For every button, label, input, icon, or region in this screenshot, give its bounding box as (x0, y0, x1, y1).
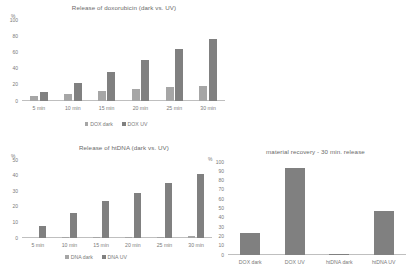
legend-label: DOX UV (128, 121, 148, 127)
x-axis-tick-label: 25 min (149, 242, 181, 248)
bar (240, 233, 260, 255)
x-axis-tick-label: 5 min (22, 242, 54, 248)
bar (166, 87, 174, 101)
chart-title: material recovery - 30 min. release (228, 148, 403, 155)
bar (107, 72, 115, 101)
bar (197, 174, 204, 238)
bar (62, 237, 69, 238)
bar (141, 60, 149, 101)
bar (132, 89, 140, 101)
bar (74, 83, 82, 101)
bar (285, 168, 305, 255)
x-axis-tick-label: DOX dark (228, 259, 273, 265)
bar (64, 94, 72, 101)
legend-swatch-icon (102, 255, 106, 259)
legend: DOX dark DOX UV (0, 121, 232, 127)
plot-area (22, 20, 225, 101)
x-axis-tick-label: 15 min (85, 242, 117, 248)
y-axis-tick-label: 100 (206, 160, 224, 165)
x-axis-line (22, 100, 225, 101)
y-axis-tick-label: 10 (206, 243, 224, 248)
legend: DNA dark DNA UV (0, 254, 212, 260)
x-axis-tick-label: 5 min (22, 105, 56, 111)
legend-item-dna-dark: DNA dark (65, 254, 93, 260)
y-axis-tick-label: 20 (0, 82, 18, 87)
y-axis-tick-label: 90 (206, 169, 224, 174)
y-axis-tick-label: 60 (206, 197, 224, 202)
chart-htdna-release: Release of htDNA (dark vs. UV) % 5 min10… (0, 144, 232, 275)
bar (188, 236, 195, 238)
chart-title: Release of htDNA (dark vs. UV) (34, 144, 214, 151)
bar (329, 254, 349, 255)
x-axis-tick-label: htDNA UV (362, 259, 407, 265)
x-axis-tick-label: 10 min (56, 105, 90, 111)
bar (125, 237, 132, 238)
y-axis-tick-label: 30 (206, 225, 224, 230)
y-axis-tick-label: 50 (0, 158, 18, 163)
y-axis-tick-label: 60 (0, 50, 18, 55)
x-axis-tick-label: 30 min (191, 105, 225, 111)
bar (102, 201, 109, 238)
x-axis-tick-label: 10 min (54, 242, 86, 248)
bar (93, 237, 100, 238)
legend-label: DOX dark (90, 121, 113, 127)
y-axis-tick-label: 40 (0, 173, 18, 178)
legend-label: DNA UV (108, 254, 127, 260)
x-axis-tick-label: DOX UV (273, 259, 318, 265)
x-axis-line (22, 237, 212, 238)
y-axis-tick-label: 80 (0, 34, 18, 39)
bar (30, 96, 38, 101)
legend-swatch-icon (65, 255, 69, 259)
legend-item-dox-dark: DOX dark (85, 121, 113, 127)
bar (70, 213, 77, 238)
bar (374, 211, 394, 255)
legend-item-dox-uv: DOX UV (122, 121, 147, 127)
x-axis-tick-label: 15 min (90, 105, 124, 111)
y-axis-tick-label: 80 (206, 178, 224, 183)
chart-material-recovery: material recovery - 30 min. release % DO… (206, 148, 415, 275)
bar (199, 86, 207, 101)
y-axis-tick-label: 0 (206, 253, 224, 258)
y-axis-tick-label: 30 (0, 189, 18, 194)
x-axis-tick-label: htDNA dark (317, 259, 362, 265)
y-axis-tick-label: 20 (206, 234, 224, 239)
bar (134, 193, 141, 238)
y-axis-tick-label: 0 (0, 236, 18, 241)
y-axis-tick-label: 10 (0, 220, 18, 225)
y-axis-tick-label: 0 (0, 99, 18, 104)
y-axis-tick-label: 70 (206, 187, 224, 192)
y-axis-tick-label: 50 (206, 206, 224, 211)
legend-label: DNA dark (71, 254, 93, 260)
y-axis-tick-label: 40 (206, 215, 224, 220)
plot-area (22, 160, 212, 238)
chart-dox-release: Release of doxorubicin (dark vs. UV) % 5… (0, 4, 232, 136)
x-axis-tick-label: 20 min (117, 242, 149, 248)
legend-item-dna-uv: DNA UV (102, 254, 127, 260)
legend-swatch-icon (85, 122, 89, 126)
bar (157, 237, 164, 238)
y-axis-tick-label: 100 (0, 18, 18, 23)
bar (175, 49, 183, 101)
chart-title: Release of doxorubicin (dark vs. UV) (34, 4, 214, 11)
plot-area (228, 162, 406, 255)
legend-swatch-icon (122, 122, 126, 126)
bar (40, 92, 48, 101)
bar (209, 39, 217, 101)
bar (98, 91, 106, 101)
bar (39, 226, 46, 238)
x-axis-tick-label: 25 min (157, 105, 191, 111)
y-axis-tick-label: 40 (0, 66, 18, 71)
bar (165, 183, 172, 238)
y-axis-tick-label: 20 (0, 204, 18, 209)
x-axis-tick-label: 20 min (124, 105, 158, 111)
